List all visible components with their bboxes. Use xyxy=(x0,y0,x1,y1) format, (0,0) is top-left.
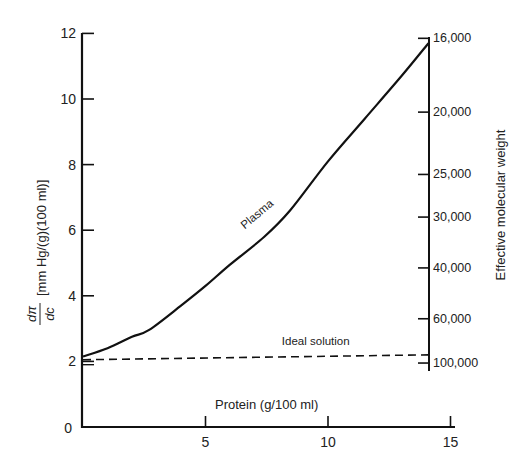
x-tick-label: 10 xyxy=(320,434,336,450)
y-tick-label: 2 xyxy=(68,353,76,369)
y2-tick-label: 30,000 xyxy=(433,210,471,224)
chart: 510150 24681012 16,00020,00025,00030,000… xyxy=(0,0,526,465)
y2-tick-label: 100,000 xyxy=(433,356,478,370)
annotation-plasma: Plasma xyxy=(238,197,276,231)
y-axis-label: dπ dc [mm Hg/(g)(100 ml)] xyxy=(24,180,57,325)
y-tick-label: 6 xyxy=(68,222,76,238)
y-ticks: 24681012 xyxy=(60,25,94,369)
y-label-numerator: dπ xyxy=(24,306,39,322)
y2-ticks: 16,00020,00025,00030,00040,00060,000100,… xyxy=(418,31,478,370)
y-tick-label: 12 xyxy=(60,25,76,41)
y2-tick-label: 60,000 xyxy=(433,312,471,326)
series-plasma xyxy=(83,43,428,356)
x-axis-label: Protein (g/100 ml) xyxy=(215,397,318,412)
y-label-units: [mm Hg/(g)(100 ml)] xyxy=(34,180,49,296)
x-tick-label: 15 xyxy=(443,434,459,450)
y-tick-label: 8 xyxy=(68,157,76,173)
y2-tick-label: 20,000 xyxy=(433,105,471,119)
y-tick-label: 4 xyxy=(68,288,76,304)
y-tick-label: 0 xyxy=(64,420,72,436)
series-group xyxy=(83,43,428,360)
x-tick-label: 5 xyxy=(202,434,210,450)
y-label-denominator: dc xyxy=(42,307,57,321)
y2-tick-label: 16,000 xyxy=(433,31,471,45)
series-ideal-solution xyxy=(83,355,428,360)
annotations: PlasmaIdeal solution xyxy=(238,197,349,347)
x-ticks: 510150 xyxy=(64,416,458,450)
y2-tick-label: 25,000 xyxy=(433,167,471,181)
y2-tick-label: 40,000 xyxy=(433,261,471,275)
y2-axis-label: Effective molecular weight xyxy=(493,129,508,280)
y-tick-label: 10 xyxy=(60,91,76,107)
annotation-ideal-solution: Ideal solution xyxy=(282,335,350,347)
